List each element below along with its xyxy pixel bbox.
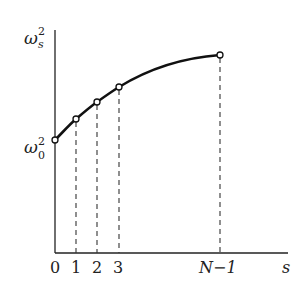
dispersion-diagram: ω s 2 ω 0 2 0 1 2 3 N−1 s — [0, 0, 303, 303]
point-0 — [52, 137, 58, 143]
point-3 — [116, 84, 122, 90]
y-origin-label-sub: 0 — [38, 149, 45, 162]
x-tick-3: 3 — [113, 258, 123, 277]
x-tick-0: 0 — [50, 258, 60, 277]
dispersion-curve — [55, 55, 220, 140]
x-tick-n-minus-1: N−1 — [198, 258, 237, 277]
y-origin-label-sup: 2 — [38, 135, 45, 148]
y-axis-label-sub: s — [38, 38, 44, 51]
dashed-guides — [76, 58, 220, 253]
y-origin-label: ω — [24, 137, 38, 157]
data-points — [52, 52, 223, 143]
x-axis-label: s — [282, 258, 290, 277]
y-axis-label-sup: 2 — [38, 25, 45, 38]
y-axis-label: ω — [24, 28, 38, 48]
point-1 — [73, 116, 79, 122]
x-tick-2: 2 — [92, 258, 102, 277]
point-2 — [94, 99, 100, 105]
x-tick-1: 1 — [71, 258, 81, 277]
point-n-minus-1 — [217, 52, 223, 58]
